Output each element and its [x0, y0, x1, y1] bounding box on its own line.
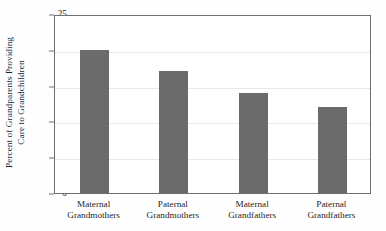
x-tick-label-line-2: Grandfathers [276, 210, 386, 221]
bar [80, 50, 109, 193]
bar [159, 71, 188, 193]
x-tick-label-line-1: Paternal [316, 199, 346, 209]
x-tick-label: PaternalGrandfathers [276, 199, 386, 222]
y-axis-title-line-2: Care to Grandchildren [16, 37, 28, 168]
x-tick-label-line-1: Paternal [158, 199, 188, 209]
y-axis-title-text: Percent of Grandparents Providing Care t… [5, 37, 28, 168]
plot-area [54, 15, 371, 194]
bar [239, 93, 268, 193]
x-tick-label-line-1: Maternal [77, 199, 110, 209]
x-tick-label-line-1: Maternal [236, 199, 269, 209]
y-axis-title: Percent of Grandparents Providing Care t… [0, 0, 32, 205]
bar-chart-figure: Percent of Grandparents Providing Care t… [0, 0, 386, 231]
y-axis-title-line-1: Percent of Grandparents Providing [5, 37, 15, 168]
bar [318, 107, 347, 193]
